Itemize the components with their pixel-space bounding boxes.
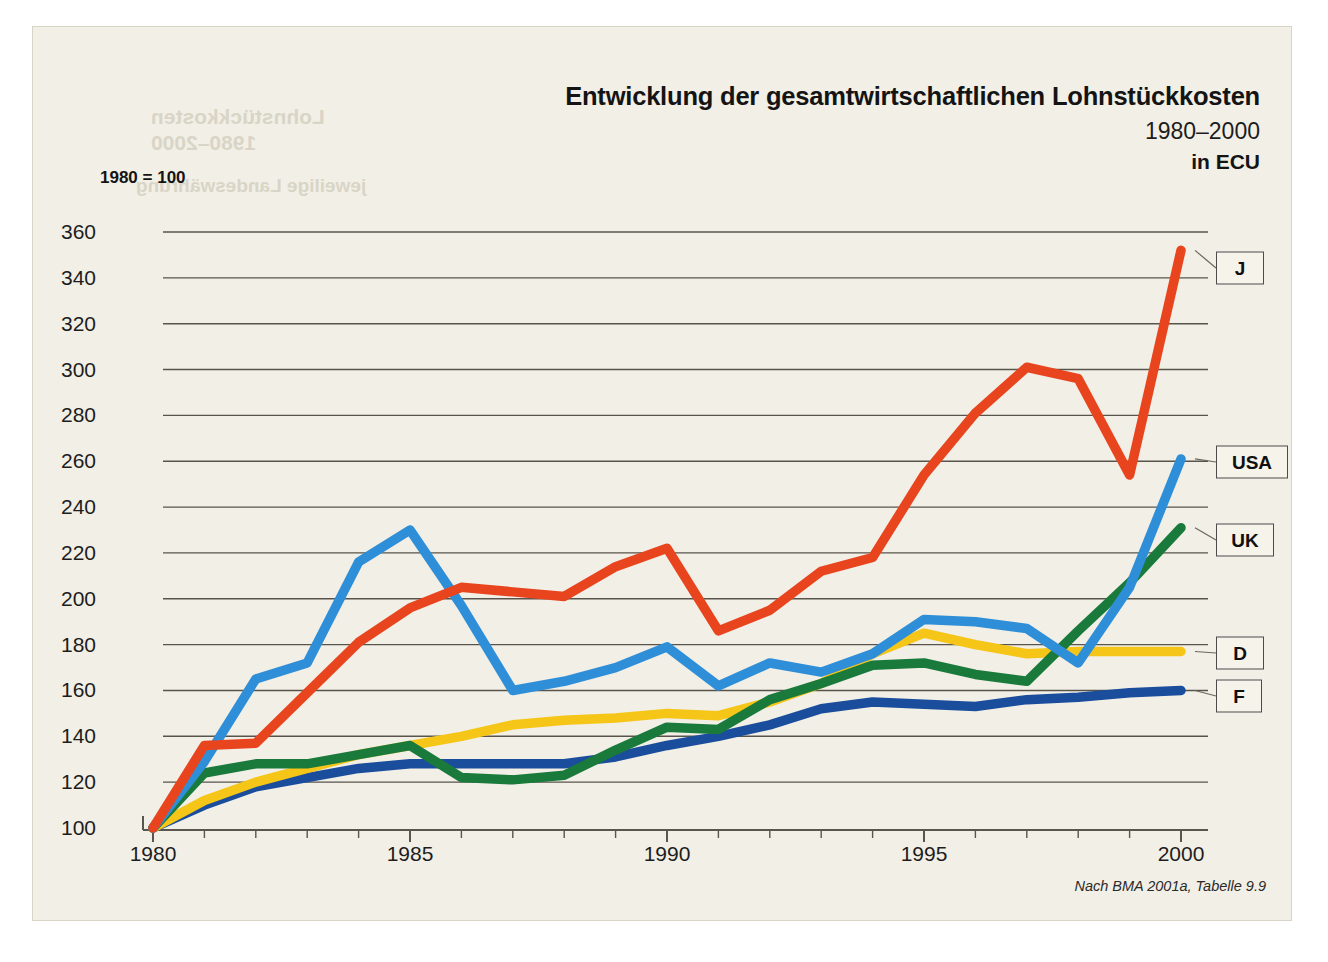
legend-leader-f	[1195, 690, 1216, 696]
legend-leader-uk	[1195, 528, 1216, 540]
legend-item-uk[interactable]: UK	[1216, 524, 1274, 557]
y-axis-tick-label: 140	[38, 724, 96, 748]
x-axis-tick-label: 1985	[387, 842, 434, 866]
y-axis-tick-label: 200	[38, 587, 96, 611]
y-axis-tick-label: 340	[38, 266, 96, 290]
legend-item-f[interactable]: F	[1216, 680, 1262, 713]
x-axis-tick-label: 1980	[130, 842, 177, 866]
y-axis-tick-label: 360	[38, 220, 96, 244]
y-axis-tick-label: 280	[38, 403, 96, 427]
x-axis-tick-label: 1990	[644, 842, 691, 866]
y-axis-tick-label: 220	[38, 541, 96, 565]
legend-item-j[interactable]: J	[1216, 252, 1264, 285]
legend-item-usa[interactable]: USA	[1216, 446, 1288, 479]
legend-item-d[interactable]: D	[1216, 637, 1264, 670]
y-axis-tick-label: 120	[38, 770, 96, 794]
series-line-uk	[153, 528, 1181, 828]
y-axis-tick-label: 260	[38, 449, 96, 473]
chart-plot-area: 1001201401601802002202402602803003203403…	[0, 0, 1328, 962]
legend-leader-d	[1195, 651, 1216, 653]
x-axis-tick-label: 2000	[1158, 842, 1205, 866]
y-axis-tick-label: 300	[38, 358, 96, 382]
y-axis-tick-label: 240	[38, 495, 96, 519]
x-axis-tick-label: 1995	[901, 842, 948, 866]
legend-leader-j	[1195, 250, 1216, 268]
figure-page: Lohnstückkosten 1980–2000 jeweilige Land…	[0, 0, 1328, 962]
chart-svg	[0, 0, 1328, 962]
y-axis-tick-label: 160	[38, 678, 96, 702]
y-axis-tick-label: 100	[38, 816, 96, 840]
y-axis-tick-label: 320	[38, 312, 96, 336]
y-axis-tick-label: 180	[38, 633, 96, 657]
